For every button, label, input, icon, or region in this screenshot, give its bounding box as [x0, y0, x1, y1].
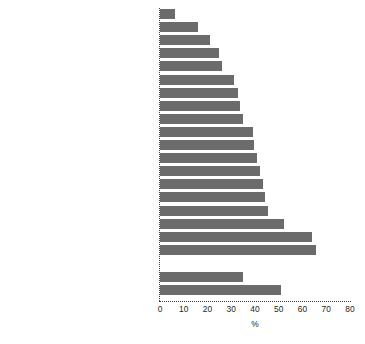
- x-tick-label: 20: [203, 303, 212, 315]
- bar: [160, 153, 257, 163]
- bar-row: Academia: [160, 152, 350, 165]
- x-tick-label: 40: [250, 303, 259, 315]
- bar-row: Corporate senior management: [160, 87, 350, 100]
- bar: [160, 127, 253, 137]
- bar-row: Architecture: [160, 47, 350, 60]
- bar-row: Law: [160, 191, 350, 204]
- x-tick-label: 0: [158, 303, 163, 315]
- bar: [160, 61, 222, 71]
- x-axis-title: %: [160, 319, 350, 329]
- bar: [160, 140, 254, 150]
- bar-row: Engineering: [160, 8, 350, 21]
- bar-row: Chiefs of fire, ambulance, and police: [160, 60, 350, 73]
- bar-row: Accountancy: [160, 126, 350, 139]
- bar-row: Film & TV: [160, 74, 350, 87]
- x-tick-label: 60: [298, 303, 307, 315]
- bar-row: Performing arts: [160, 178, 350, 191]
- bar-row: Top jobs overall: [160, 271, 350, 284]
- bar: [160, 88, 238, 98]
- bar: [160, 179, 263, 189]
- bar-row: Advertising: [160, 165, 350, 178]
- bar: [160, 219, 284, 229]
- x-tick-label: 10: [179, 303, 188, 315]
- bar: [160, 114, 243, 124]
- x-tick-label: 70: [322, 303, 331, 315]
- bar: [160, 192, 265, 202]
- bar-row: Life sciences: [160, 231, 350, 244]
- bar-row: Science: [160, 139, 350, 152]
- bar: [160, 166, 260, 176]
- bar: [160, 22, 198, 32]
- bar-rows: EngineeringITCEOsArchitectureChiefs of f…: [160, 8, 350, 307]
- bar: [160, 245, 316, 255]
- x-tick-label: 50: [274, 303, 283, 315]
- bar: [160, 9, 175, 19]
- bar-row: IT: [160, 21, 350, 34]
- bar-row: In whole workforce: [160, 284, 350, 297]
- plot-area: EngineeringITCEOsArchitectureChiefs of f…: [160, 8, 350, 307]
- bar: [160, 35, 210, 45]
- bar: [160, 48, 219, 58]
- bar-row: Management consulting: [160, 113, 350, 126]
- bar-row: CEOs: [160, 34, 350, 47]
- bar: [160, 75, 234, 85]
- bar-row: Medicine: [160, 205, 350, 218]
- x-axis-ticks: 01020304050607080: [160, 303, 350, 317]
- bar-row: Finance: [160, 100, 350, 113]
- bar: [160, 285, 281, 295]
- x-tick-label: 30: [227, 303, 236, 315]
- bar: [160, 232, 312, 242]
- bar: [160, 206, 268, 216]
- bar: [160, 272, 243, 282]
- bar-row: Public-sector senior management: [160, 244, 350, 257]
- x-tick-label: 80: [345, 303, 354, 315]
- bar-row: Journalism: [160, 218, 350, 231]
- bar-chart: EngineeringITCEOsArchitectureChiefs of f…: [0, 0, 365, 344]
- bar: [160, 101, 240, 111]
